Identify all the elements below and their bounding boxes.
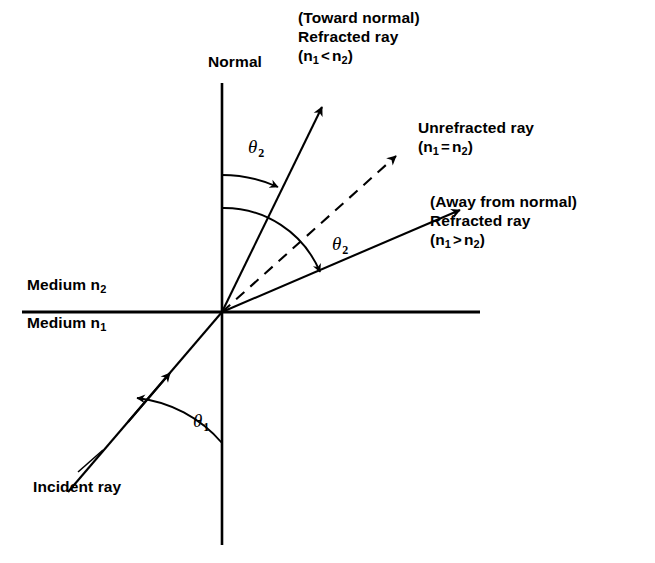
away-condition: (n1>n2) (430, 230, 577, 251)
away-from-normal-label: (Away from normal) Refracted ray (n1>n2) (430, 192, 577, 251)
toward-normal-line2: Refracted ray (298, 27, 420, 46)
toward-normal-line1: (Toward normal) (298, 8, 420, 27)
incident-ray-leader (78, 450, 103, 472)
unrefracted-condition: (n1=n2) (418, 137, 534, 158)
normal-label: Normal (208, 52, 262, 71)
theta2-lower-label: θ2 (332, 233, 347, 255)
theta2-lower-arc (222, 208, 320, 272)
theta1-arc (137, 398, 222, 443)
theta2-upper-arc (222, 175, 278, 187)
away-line2: Refracted ray (430, 211, 577, 230)
toward-normal-label: (Toward normal) Refracted ray (n1<n2) (298, 8, 420, 67)
unrefracted-line1: Unrefracted ray (418, 118, 534, 137)
unrefracted-ray-label: Unrefracted ray (n1=n2) (418, 118, 534, 158)
refracted-ray-away-from-normal (222, 210, 460, 312)
toward-normal-condition: (n1<n2) (298, 46, 420, 67)
incident-ray-label: Incident ray (33, 477, 121, 496)
theta2-upper-label: θ2 (248, 136, 263, 158)
theta1-label: θ1 (193, 410, 208, 432)
away-line1: (Away from normal) (430, 192, 577, 211)
incident-ray-direction-arrow (128, 373, 170, 422)
medium-lower-label: Medium n1 (27, 313, 106, 334)
medium-upper-label: Medium n2 (27, 275, 106, 296)
unrefracted-ray (222, 156, 396, 312)
refraction-diagram-canvas: Normal (Toward normal) Refracted ray (n1… (0, 0, 655, 563)
